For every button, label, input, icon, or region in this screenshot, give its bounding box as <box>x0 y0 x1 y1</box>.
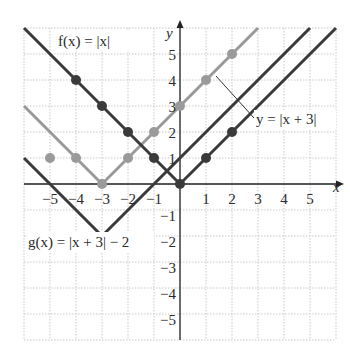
x-tick-label: −4 <box>68 191 84 207</box>
y3-function-label: y = |x + 3| <box>256 111 316 127</box>
x-tick-label: −1 <box>146 191 162 207</box>
x-tick-label: −2 <box>120 191 136 207</box>
y-tick-label: −3 <box>160 260 176 276</box>
y-tick-label: −2 <box>160 234 176 250</box>
data-point <box>201 75 211 85</box>
y-tick-label: 2 <box>169 125 177 141</box>
f-function-label: f(x) = |x| <box>58 33 110 50</box>
x-tick-label: 2 <box>228 191 236 207</box>
y-tick-label: 4 <box>169 73 177 89</box>
data-point <box>123 153 133 163</box>
y-tick-label: −1 <box>160 208 176 224</box>
y-tick-label: −4 <box>160 286 176 302</box>
data-point <box>45 153 55 163</box>
data-point <box>149 127 159 137</box>
data-point <box>97 101 107 111</box>
y-tick-label: 5 <box>169 47 177 63</box>
x-tick-label: 1 <box>202 191 210 207</box>
data-point <box>175 101 185 111</box>
data-point <box>97 179 107 189</box>
graph-absolute-value-transformations: −5−4−3−2−112345−5−4−3−2−112345 x y f(x) … <box>0 0 350 353</box>
leader-line <box>216 76 254 118</box>
x-tick-label: −3 <box>94 191 110 207</box>
g-function-label: g(x) = |x + 3| − 2 <box>28 234 129 251</box>
data-point <box>175 179 185 189</box>
x-tick-label: 5 <box>306 191 314 207</box>
data-point <box>149 153 159 163</box>
data-point <box>71 75 81 85</box>
y-tick-label: −5 <box>160 312 176 328</box>
data-point <box>71 153 81 163</box>
data-point <box>227 127 237 137</box>
x-tick-label: −5 <box>42 191 58 207</box>
y-axis-arrow-icon <box>177 20 184 28</box>
x-tick-label: 4 <box>280 191 288 207</box>
y-axis-label: y <box>164 25 173 41</box>
data-point <box>227 49 237 59</box>
y-tick-label: 3 <box>169 99 177 115</box>
data-point <box>123 127 133 137</box>
y-tick-label: 1 <box>169 151 177 167</box>
x-tick-label: 3 <box>254 191 262 207</box>
data-points <box>45 49 237 189</box>
x-axis-label: x <box>332 179 340 195</box>
data-point <box>201 153 211 163</box>
